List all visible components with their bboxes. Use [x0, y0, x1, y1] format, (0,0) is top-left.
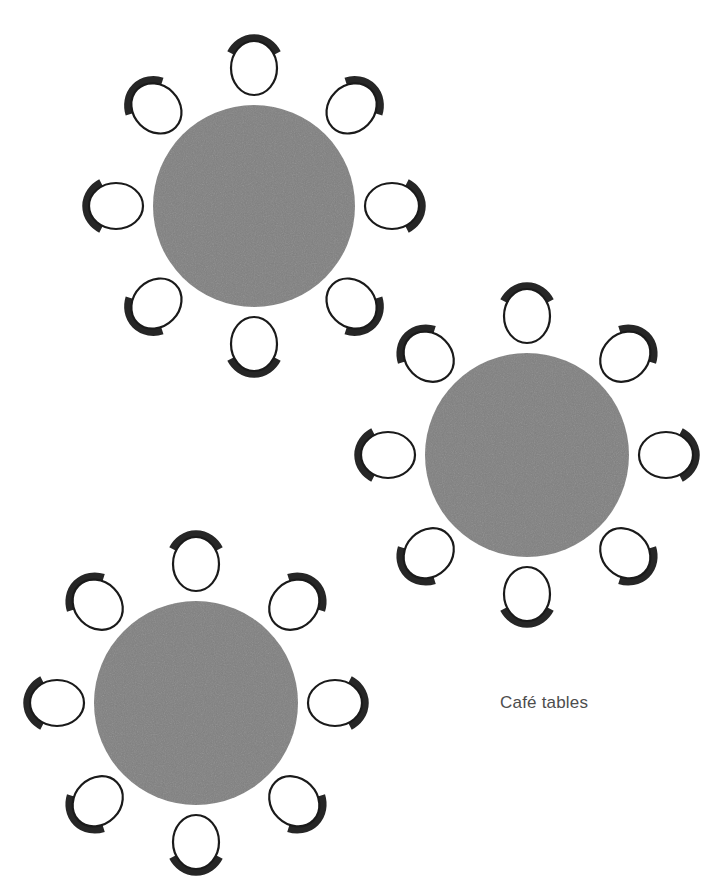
- chair-seat: [173, 815, 219, 869]
- table-top: [94, 601, 298, 805]
- chair-seat: [504, 567, 550, 621]
- chair: [590, 319, 663, 392]
- chair: [119, 71, 192, 144]
- chair-seat: [361, 432, 415, 478]
- chair: [259, 766, 332, 839]
- chair-seat: [259, 766, 330, 837]
- chair-seat: [590, 321, 661, 392]
- chair: [231, 317, 278, 374]
- chair: [590, 518, 663, 591]
- chair-seat: [231, 317, 277, 371]
- chair-seat: [231, 41, 277, 95]
- chair-seat: [121, 268, 192, 339]
- chair-seat: [89, 183, 143, 229]
- chair-seat: [62, 569, 133, 640]
- cafe-tables-diagram: [0, 0, 720, 892]
- chair-seat: [316, 268, 387, 339]
- chair-seat: [259, 569, 330, 640]
- chair: [60, 766, 133, 839]
- table-2: [358, 286, 696, 624]
- diagram-canvas: Café tables: [0, 0, 720, 892]
- chair-seat: [173, 537, 219, 591]
- chair-seat: [121, 73, 192, 144]
- chair-seat: [639, 432, 693, 478]
- chair: [27, 680, 84, 727]
- chair: [316, 268, 389, 341]
- chair: [60, 567, 133, 640]
- table-1: [86, 38, 422, 374]
- chair-seat: [62, 766, 133, 837]
- chair: [308, 680, 365, 727]
- chair-seat: [504, 289, 550, 343]
- chair: [86, 183, 143, 230]
- chair: [639, 432, 696, 479]
- chair-seat: [316, 73, 387, 144]
- table-3: [27, 534, 365, 872]
- chair: [173, 815, 220, 872]
- chair-seat: [393, 321, 464, 392]
- chair: [504, 286, 551, 343]
- diagram-caption: Café tables: [500, 693, 588, 713]
- chair-seat: [30, 680, 84, 726]
- chair: [365, 183, 422, 230]
- chair: [358, 432, 415, 479]
- chair-seat: [308, 680, 362, 726]
- chair: [259, 567, 332, 640]
- tables-layer: [27, 38, 696, 872]
- chair: [391, 518, 464, 591]
- chair-seat: [590, 518, 661, 589]
- chair: [316, 71, 389, 144]
- chair: [119, 268, 192, 341]
- chair: [231, 38, 278, 95]
- chair-seat: [365, 183, 419, 229]
- chair: [173, 534, 220, 591]
- chair: [504, 567, 551, 624]
- table-top: [153, 105, 355, 307]
- chair-seat: [393, 518, 464, 589]
- table-top: [425, 353, 629, 557]
- chair: [391, 319, 464, 392]
